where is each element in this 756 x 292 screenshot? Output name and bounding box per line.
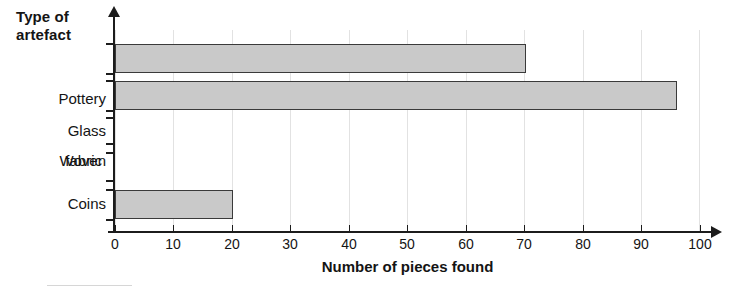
x-tick-label-0: 0 bbox=[95, 236, 135, 252]
category-label-woven-fabric-wrap: Woven fabric bbox=[6, 153, 106, 169]
x-tick-10 bbox=[173, 225, 174, 233]
x-tick-label-50: 50 bbox=[387, 236, 427, 252]
y-axis-title-line-2: artefact bbox=[16, 26, 112, 44]
y-axis-title: Type of artefact bbox=[16, 8, 112, 44]
x-tick-label-70: 70 bbox=[504, 236, 544, 252]
y-tick-7 bbox=[106, 180, 115, 182]
plot-area bbox=[115, 30, 700, 232]
x-tick-label-80: 80 bbox=[563, 236, 603, 252]
bar-pottery bbox=[115, 81, 677, 110]
category-label-woven-fabric-line-2: fabric bbox=[6, 153, 102, 169]
y-tick-0 bbox=[106, 43, 115, 45]
page-scan-artifact bbox=[47, 285, 132, 286]
gridline-100 bbox=[699, 30, 700, 232]
y-tick-3 bbox=[106, 110, 115, 112]
x-tick-100 bbox=[700, 225, 701, 233]
x-tick-70 bbox=[524, 225, 525, 233]
x-axis-title: Number of pieces found bbox=[115, 258, 700, 275]
y-tick-6 bbox=[106, 152, 115, 154]
bar-category-0 bbox=[115, 44, 526, 73]
gridline-90 bbox=[641, 30, 642, 232]
x-tick-0 bbox=[115, 225, 116, 233]
y-tick-5 bbox=[106, 143, 115, 145]
y-tick-4 bbox=[106, 117, 115, 119]
category-label-glass: Glass bbox=[10, 123, 106, 139]
category-label-pottery: Pottery bbox=[10, 91, 106, 107]
y-tick-9 bbox=[106, 219, 115, 221]
bar-coins bbox=[115, 190, 233, 219]
x-tick-20 bbox=[232, 225, 233, 233]
y-tick-8 bbox=[106, 189, 115, 191]
x-tick-90 bbox=[641, 225, 642, 233]
gridline-80 bbox=[583, 30, 584, 232]
bar-chart: Type of artefact Pottery Glass Woven fab… bbox=[0, 0, 756, 292]
y-tick-2 bbox=[106, 80, 115, 82]
x-tick-50 bbox=[407, 225, 408, 233]
x-tick-40 bbox=[349, 225, 350, 233]
x-axis-line bbox=[108, 231, 713, 233]
x-tick-60 bbox=[466, 225, 467, 233]
category-label-coins: Coins bbox=[10, 196, 106, 212]
x-tick-label-10: 10 bbox=[153, 236, 193, 252]
x-tick-label-40: 40 bbox=[329, 236, 369, 252]
x-tick-label-30: 30 bbox=[270, 236, 310, 252]
x-tick-label-100: 100 bbox=[680, 236, 720, 252]
y-axis-title-line-1: Type of bbox=[16, 8, 112, 26]
x-tick-80 bbox=[583, 225, 584, 233]
x-tick-label-90: 90 bbox=[621, 236, 661, 252]
x-tick-label-60: 60 bbox=[446, 236, 486, 252]
x-tick-label-20: 20 bbox=[212, 236, 252, 252]
y-axis-line bbox=[113, 14, 115, 233]
y-tick-1 bbox=[106, 73, 115, 75]
x-tick-30 bbox=[290, 225, 291, 233]
